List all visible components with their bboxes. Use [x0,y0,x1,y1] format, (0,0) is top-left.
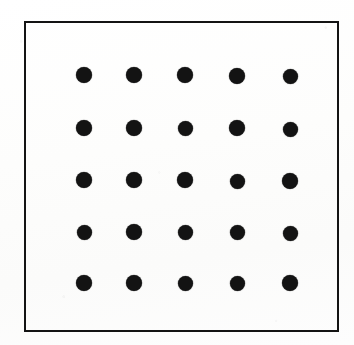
figure-root [0,0,354,345]
grid-dot [76,120,92,136]
grid-dot [126,172,142,188]
grid-dot [178,121,193,136]
grid-dot [77,225,92,240]
grid-dot [283,226,298,241]
grid-dot [282,173,298,189]
grid-dot [76,172,92,188]
grid-dot [126,275,142,291]
grid-dot [283,122,298,137]
grid-dot [178,276,193,291]
grid-dot [230,225,245,240]
grid-dot [229,68,245,84]
grid-dot [177,67,193,83]
grid-dot [126,224,142,240]
grid-dot [126,67,142,83]
grid-dot [230,174,245,189]
grid-dot [282,275,298,291]
grid-dot [76,67,92,83]
grid-dot [76,275,92,291]
grid-dot [178,225,193,240]
grid-dot [283,69,298,84]
grid-dot [126,120,142,136]
grid-dot [229,120,245,136]
grid-dot [177,172,193,188]
plot-frame-border [24,21,339,332]
dot-grid-layer [26,23,337,330]
grid-dot [230,276,245,291]
